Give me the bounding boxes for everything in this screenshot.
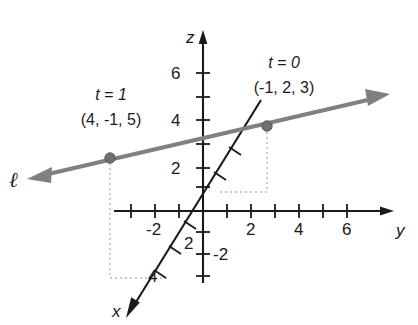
y-tick-label-6: 6 xyxy=(342,221,351,238)
y-axis-arrowhead xyxy=(380,207,394,216)
z-tick-label-neg2: -2 xyxy=(213,246,228,263)
point-t0-t-label: t = 0 xyxy=(236,55,332,71)
x-tick-3 xyxy=(184,221,196,229)
z-tick-label-4: 4 xyxy=(171,112,180,129)
z-tick-label-6: 6 xyxy=(171,65,180,82)
x-tick-label-2: 2 xyxy=(184,235,193,252)
point-t0-coords-label: (-1, 2, 3) xyxy=(236,80,332,96)
z-axis xyxy=(196,30,210,283)
projection-guides xyxy=(110,127,267,278)
x-axis xyxy=(126,100,261,318)
x-tick-4 xyxy=(169,246,181,254)
point-t1-marker xyxy=(105,153,115,163)
y-tick-label-neg2: -2 xyxy=(146,221,161,238)
point-t0-t-text: t = 0 xyxy=(268,54,300,71)
z-axis-label: z xyxy=(186,29,195,46)
z-axis-arrowhead xyxy=(199,30,208,44)
point-t1-coords-label: (4, -1, 5) xyxy=(63,112,159,128)
z-tick-label-2: 2 xyxy=(171,160,180,177)
point-t0-marker xyxy=(262,121,272,131)
y-tick-label-4: 4 xyxy=(294,221,303,238)
coordinate-figure xyxy=(0,0,418,325)
x-tick-label-4: 4 xyxy=(148,268,157,285)
line-ell-left-arrowhead xyxy=(27,167,52,183)
line-ell-right-arrowhead xyxy=(365,89,390,106)
x-tick-1 xyxy=(229,147,241,155)
y-tick-label-2: 2 xyxy=(246,221,255,238)
point-t1-t-label: t = 1 xyxy=(63,87,159,103)
line-ell-label: ℓ xyxy=(9,170,18,191)
x-tick-2 xyxy=(214,172,226,180)
point-t1-t-text: t = 1 xyxy=(95,86,127,103)
x-axis-label: x xyxy=(112,303,121,320)
y-axis-label: y xyxy=(396,222,405,239)
y-axis xyxy=(114,204,394,218)
